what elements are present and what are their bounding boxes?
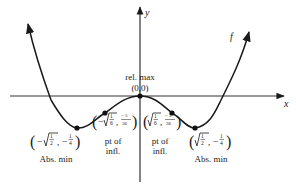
svg-text:1: 1: [154, 113, 157, 119]
svg-text:1: 1: [69, 133, 72, 139]
abs-min-left-caption: Abs. min: [39, 154, 73, 164]
svg-text:−: −: [98, 116, 104, 127]
point-abs-min-left: [74, 125, 79, 130]
origin-label: (0,0): [131, 83, 148, 93]
svg-text:): ): [132, 113, 137, 131]
rel-max-label: rel. max: [125, 72, 155, 82]
y-axis-label: y: [144, 7, 150, 18]
abs-min-left-coord: ( − 1 2 , − 1 4 ): [30, 133, 80, 151]
inflection-right-caption-2: infl.: [153, 146, 168, 156]
svg-text:(: (: [143, 113, 148, 131]
svg-text:1: 1: [50, 133, 53, 139]
svg-text:(: (: [189, 133, 194, 151]
function-graph: x y f rel. max (0,0) ( − 1 2 , − 1 4 ) A…: [0, 0, 296, 184]
svg-text:36: 36: [122, 121, 128, 126]
svg-text:−: −: [37, 136, 43, 147]
svg-text:2: 2: [50, 140, 53, 146]
function-label: f: [230, 31, 234, 42]
svg-text:(: (: [30, 133, 35, 151]
svg-text:6: 6: [110, 120, 113, 126]
inflection-left-caption-2: infl.: [106, 146, 121, 156]
svg-text:4: 4: [69, 140, 72, 146]
svg-text:(: (: [92, 113, 97, 131]
svg-text:): ): [226, 133, 231, 151]
point-abs-min-right: [192, 125, 197, 130]
curve-right-arm: [221, 32, 249, 100]
inflection-left-caption-1: pt of: [105, 136, 122, 146]
svg-text:1: 1: [220, 133, 223, 139]
curve-left-arm: [28, 24, 51, 100]
svg-text:,: ,: [116, 117, 118, 127]
svg-text:2: 2: [201, 140, 204, 146]
svg-text:4: 4: [220, 140, 223, 146]
svg-text:1: 1: [110, 113, 113, 119]
svg-text:): ): [75, 133, 80, 151]
svg-text:−: −: [62, 136, 68, 147]
point-inflection-left: [102, 110, 107, 115]
svg-text:5: 5: [125, 113, 128, 118]
inflection-left-coord: ( − 1 6 , − 5 36 ): [92, 113, 137, 131]
svg-text:,: ,: [160, 117, 162, 127]
abs-min-right-coord: ( 1 2 , − 1 4 ): [189, 133, 231, 151]
x-axis-label: x: [283, 98, 289, 109]
svg-text:): ): [176, 113, 181, 131]
svg-text:−: −: [165, 113, 168, 118]
abs-min-right-caption: Abs. min: [194, 154, 228, 164]
inflection-right-coord: ( 1 6 , − 5 36 ): [143, 113, 181, 131]
svg-text:1: 1: [201, 133, 204, 139]
svg-text:,: ,: [57, 137, 59, 147]
svg-text:36: 36: [166, 121, 172, 126]
svg-text:−: −: [213, 136, 219, 147]
inflection-right-caption-1: pt of: [152, 136, 169, 146]
point-rel-max: [137, 93, 142, 98]
svg-text:6: 6: [154, 120, 157, 126]
svg-text:−: −: [121, 113, 124, 118]
svg-text:,: ,: [208, 137, 210, 147]
